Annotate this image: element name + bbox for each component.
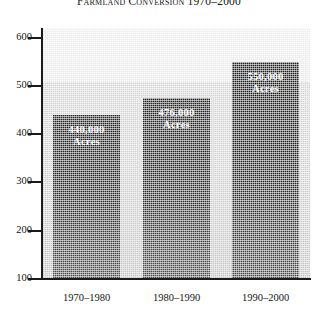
- bar-value-label: 440,000 Acres: [53, 124, 120, 148]
- bar-1990-2000[interactable]: 550,000 Acres: [232, 62, 299, 279]
- bar-1980-1990[interactable]: 476,000 Acres: [143, 98, 210, 279]
- farmland-conversion-bar-chart: Farmland Conversion 1970–2000 440,000 Ac…: [0, 0, 318, 313]
- y-tick-label-100: 100: [0, 273, 32, 283]
- plot-area: 440,000 Acres 476,000 Acres 550,000 Acre…: [42, 28, 310, 279]
- bar-value-label: 550,000 Acres: [232, 71, 299, 95]
- y-tick-label-600: 600: [0, 32, 32, 42]
- y-axis-line: [41, 28, 43, 280]
- bar-1970-1980[interactable]: 440,000 Acres: [53, 115, 120, 279]
- y-tick-label-200: 200: [0, 225, 32, 235]
- bar-value-label: 476,000 Acres: [143, 107, 210, 131]
- x-axis-label-1970–1980: 1970–1980: [47, 292, 127, 304]
- bar-unit-text: Acres: [143, 119, 210, 131]
- bar-unit-text: Acres: [53, 136, 120, 148]
- y-tick-label-500: 500: [0, 80, 32, 90]
- x-axis-line: [41, 278, 311, 280]
- bar-value-text: 550,000: [232, 71, 299, 83]
- x-axis-label-1980–1990: 1980–1990: [137, 292, 217, 304]
- y-tick-label-300: 300: [0, 176, 32, 186]
- chart-title: Farmland Conversion 1970–2000: [0, 0, 318, 8]
- bar-value-text: 476,000: [143, 107, 210, 119]
- y-tick-label-400: 400: [0, 128, 32, 138]
- bar-value-text: 440,000: [53, 124, 120, 136]
- x-axis-label-1990–2000: 1990–2000: [226, 292, 306, 304]
- bar-unit-text: Acres: [232, 83, 299, 95]
